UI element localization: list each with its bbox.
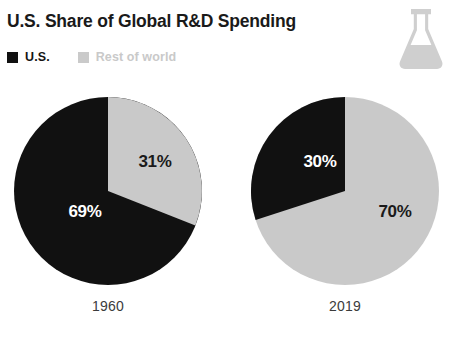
page-title: U.S. Share of Global R&D Spending — [7, 11, 296, 32]
legend-item-rest-of-world: Rest of world — [78, 50, 176, 64]
pie-caption-2019: 2019 — [250, 298, 440, 314]
pie-chart-1960-graphic — [13, 96, 203, 286]
legend-item-us: U.S. — [7, 50, 50, 64]
legend-label-rest-of-world: Rest of world — [96, 50, 176, 64]
pie-label-us-1960: 69% — [68, 202, 101, 222]
flask-icon — [398, 7, 444, 71]
chart-legend: U.S. Rest of world — [7, 50, 176, 64]
pie-chart-2019: 30% 70% — [250, 96, 440, 286]
legend-label-us: U.S. — [25, 50, 50, 64]
pie-label-rest-of-world-2019: 70% — [378, 202, 411, 222]
legend-swatch-rest-of-world-icon — [78, 52, 89, 63]
pie-chart-2019-graphic — [250, 96, 440, 286]
chart-canvas: U.S. Share of Global R&D Spending U.S. R… — [0, 0, 452, 345]
pie-label-rest-of-world-1960: 31% — [138, 152, 171, 172]
pie-caption-1960: 1960 — [13, 298, 203, 314]
pie-chart-1960: 31% 69% — [13, 96, 203, 286]
legend-swatch-us-icon — [7, 52, 18, 63]
pie-label-us-2019: 30% — [303, 152, 336, 172]
